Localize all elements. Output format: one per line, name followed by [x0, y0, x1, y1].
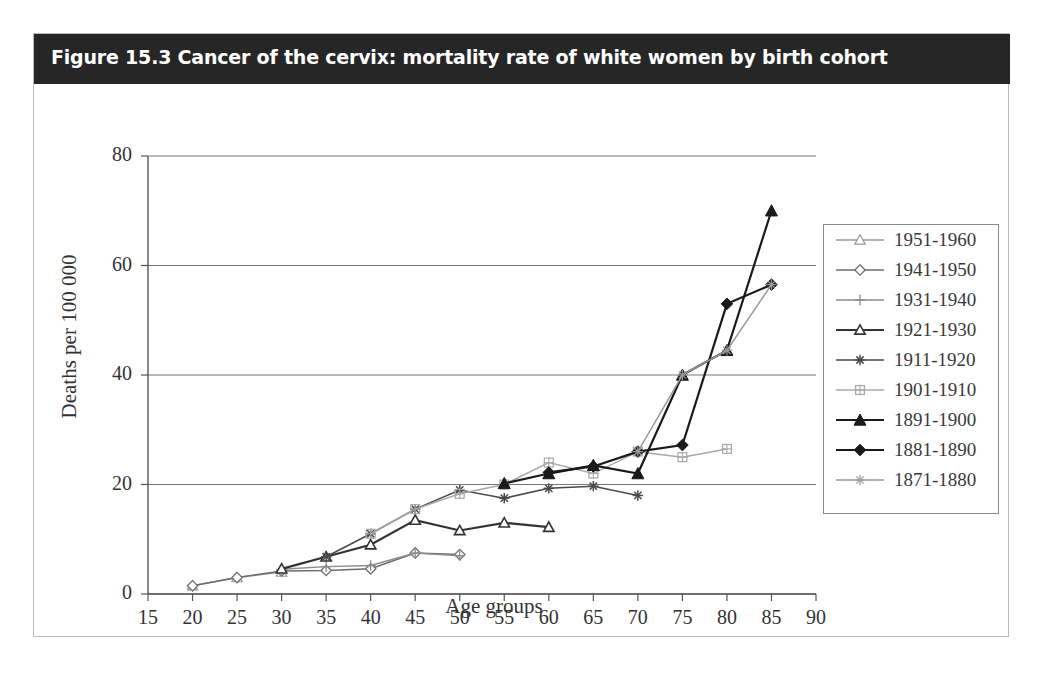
- data-point: [410, 548, 420, 558]
- chart-legend: 1951-19601941-19501931-19401921-19301911…: [823, 224, 999, 514]
- legend-item-1881-1890[interactable]: 1881-1890: [824, 435, 998, 465]
- legend-symbol-plus-box-icon: [834, 379, 886, 401]
- data-point: [677, 370, 687, 380]
- legend-marker: [855, 475, 865, 485]
- figure-title-bar: Figure 15.3 Cancer of the cervix: mortal…: [34, 34, 1010, 84]
- legend-marker: [854, 444, 866, 456]
- legend-marker: [855, 265, 865, 275]
- legend-item-1941-1950[interactable]: 1941-1950: [824, 255, 998, 285]
- legend-label: 1931-1940: [886, 289, 976, 311]
- legend-item-1871-1880[interactable]: 1871-1880: [824, 465, 998, 495]
- legend-item-1921-1930[interactable]: 1921-1930: [824, 315, 998, 345]
- data-point: [765, 205, 777, 216]
- data-point: [677, 439, 689, 451]
- data-point: [365, 540, 375, 549]
- legend-marker: [855, 295, 865, 305]
- series-1911-1920: [321, 481, 643, 562]
- legend-symbol-star-light-icon: [834, 469, 886, 491]
- legend-symbol-asterisk-icon: [834, 349, 886, 371]
- data-point: [722, 444, 732, 454]
- data-point: [321, 552, 331, 562]
- legend-label: 1881-1890: [886, 439, 976, 461]
- legend-symbol-diamond-filled-icon: [834, 439, 886, 461]
- legend-label: 1901-1910: [886, 379, 976, 401]
- legend-item-1931-1940[interactable]: 1931-1940: [824, 285, 998, 315]
- legend-symbol-triangle-open-icon: [834, 229, 886, 251]
- series-line: [504, 211, 771, 484]
- chart-plot-area: Deaths per 100 000 Age groups 020406080 …: [34, 84, 1010, 638]
- data-point: [455, 550, 465, 560]
- data-point: [410, 515, 420, 524]
- figure-title: Figure 15.3 Cancer of the cervix: mortal…: [51, 46, 888, 68]
- legend-label: 1921-1930: [886, 319, 976, 341]
- legend-label: 1891-1900: [886, 409, 976, 431]
- data-point: [633, 490, 643, 500]
- legend-label: 1951-1960: [886, 229, 976, 251]
- series-1921-1930: [276, 515, 554, 573]
- legend-item-1951-1960[interactable]: 1951-1960: [824, 225, 998, 255]
- data-point: [721, 298, 733, 310]
- data-point: [588, 481, 598, 491]
- legend-symbol-triangle-filled-icon: [834, 409, 886, 431]
- data-point: [499, 493, 509, 503]
- legend-label: 1871-1880: [886, 469, 976, 491]
- legend-item-1891-1900[interactable]: 1891-1900: [824, 405, 998, 435]
- series-1871-1880: [633, 279, 777, 456]
- figure-card: Figure 15.3 Cancer of the cervix: mortal…: [33, 33, 1009, 637]
- data-point: [633, 446, 643, 456]
- legend-item-1901-1910[interactable]: 1901-1910: [824, 375, 998, 405]
- legend-symbol-plus-icon: [834, 289, 886, 311]
- legend-marker: [855, 355, 865, 365]
- data-point: [677, 452, 687, 462]
- legend-item-1911-1920[interactable]: 1911-1920: [824, 345, 998, 375]
- legend-label: 1941-1950: [886, 259, 976, 281]
- series-1881-1890: [543, 279, 777, 478]
- legend-marker: [855, 385, 865, 395]
- legend-label: 1911-1920: [886, 349, 976, 371]
- legend-symbol-diamond-open-icon: [834, 259, 886, 281]
- legend-symbol-triangle-open-dark-icon: [834, 319, 886, 341]
- data-point: [766, 279, 776, 289]
